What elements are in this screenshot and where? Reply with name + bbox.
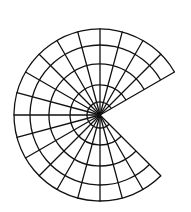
polar-sector-grid-diagram bbox=[0, 0, 191, 212]
